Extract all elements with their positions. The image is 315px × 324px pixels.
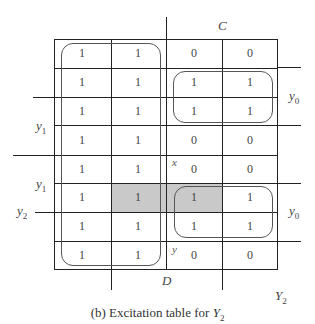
label-y1-upper: y1: [36, 118, 46, 136]
variable-line-y0-a-bottom: [278, 125, 301, 126]
label-y2-sub: 2: [23, 211, 28, 221]
label-y0-upper-sub: 0: [295, 96, 300, 106]
label-y: y: [172, 243, 177, 255]
group-loop-y0-lower: [174, 186, 273, 238]
caption-text: (b) Excitation table for: [91, 305, 213, 320]
cell-r3-c2: 0: [166, 126, 222, 155]
label-y0-lower: y0: [289, 203, 299, 221]
caption-sub: 2: [220, 313, 225, 323]
group-loop-y0-upper: [173, 71, 273, 123]
cell-r0-c2: 0: [166, 39, 222, 68]
label-x: x: [172, 156, 177, 168]
cell-r3-c3: 0: [222, 126, 278, 155]
variable-line-y2: [35, 212, 54, 213]
label-y2: y2: [17, 203, 27, 221]
group-loop-left-columns: [61, 43, 161, 266]
variable-line-y1-top: [33, 97, 54, 98]
label-y1-upper-sub: 1: [42, 126, 47, 136]
cell-r7-c3: 0: [222, 241, 278, 270]
caption-var: Y: [213, 305, 220, 320]
label-y0-lower-sub: 0: [295, 211, 300, 221]
label-D: D: [162, 273, 171, 289]
label-y1-lower-sub: 1: [42, 184, 47, 194]
cell-r0-c3: 0: [222, 39, 278, 68]
variable-line-D-left: [111, 270, 112, 290]
figure-caption: (b) Excitation table for Y2: [0, 305, 315, 323]
label-C: C: [218, 18, 227, 34]
variable-line-y0-a-top: [278, 67, 301, 68]
variable-line-y0-b-bottom: [278, 241, 301, 242]
variable-line-C: [166, 17, 167, 39]
variable-line-y1-mid: [13, 155, 54, 156]
function-label-Y2: Y2: [275, 288, 287, 306]
variable-line-D-right: [222, 270, 223, 290]
label-y0-upper: y0: [289, 88, 299, 106]
variable-line-y0-b-top: [278, 183, 301, 184]
label-y1-lower: y1: [36, 176, 46, 194]
cell-r4-c3: 0: [222, 155, 278, 184]
